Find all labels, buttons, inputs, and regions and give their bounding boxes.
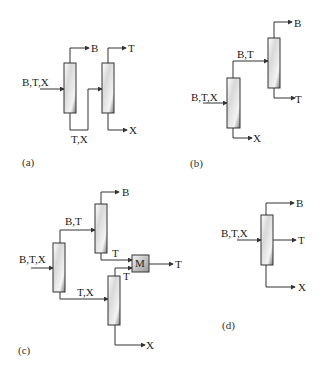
stream-arrow-c-top2 xyxy=(101,192,119,204)
stream-label-d-bottom: X xyxy=(298,281,306,293)
panel-label-b: (b) xyxy=(190,157,203,170)
stream-label-b-bottom2: T xyxy=(295,93,302,105)
stream-label-c-bottom2: T xyxy=(112,247,119,259)
panel-label-a: (a) xyxy=(22,156,35,169)
stream-label-b-bottom1: X xyxy=(253,132,261,144)
stream-arrow-b-bottom2 xyxy=(274,88,295,98)
process-diagram: B,T,X B T,X T X (a) B,T,X B,T X B T (b) … xyxy=(0,0,325,369)
column-d xyxy=(261,215,273,265)
stream-arrow-a-top1 xyxy=(70,48,89,63)
panel-label-c: (c) xyxy=(18,344,31,357)
panel-c: B,T,X B,T T,X B T T X M T (c) xyxy=(18,186,182,357)
stream-label-b-top1: B,T xyxy=(237,48,254,60)
stream-label-b-top2: B xyxy=(294,17,301,29)
stream-label-a-top1: B xyxy=(91,42,98,54)
stream-label-d-side: T xyxy=(298,234,305,246)
panel-a: B,T,X B T,X T X (a) xyxy=(22,42,137,169)
stream-arrow-b-top2 xyxy=(274,22,292,38)
column-c2 xyxy=(95,204,107,253)
stream-label-d-top: B xyxy=(296,197,303,209)
mixer-label: M xyxy=(135,257,145,269)
stream-label-a-top2: T xyxy=(128,42,135,54)
feed-label-d: B,T,X xyxy=(221,227,248,239)
stream-arrow-c-top1 xyxy=(60,230,95,243)
feed-label-c: B,T,X xyxy=(19,253,46,265)
stream-arrow-c-bottom3 xyxy=(115,325,145,345)
stream-arrow-a-bottom2 xyxy=(108,113,127,130)
column-c3 xyxy=(108,276,120,325)
panel-d: B,T,X B T X (d) xyxy=(221,197,306,332)
stream-arrow-a-top2 xyxy=(108,48,126,63)
stream-label-c-bottom1: T,X xyxy=(77,286,94,298)
column-c1 xyxy=(53,243,65,292)
column-a2 xyxy=(102,63,114,113)
panel-label-d: (d) xyxy=(222,319,235,332)
column-b2 xyxy=(268,38,280,88)
stream-label-c-top2: B xyxy=(122,186,129,198)
column-b1 xyxy=(227,78,240,128)
column-a1 xyxy=(64,63,76,113)
stream-label-c-bottom3: X xyxy=(146,339,154,351)
feed-label-a: B,T,X xyxy=(22,76,49,88)
stream-label-c-mixer-out: T xyxy=(175,258,182,270)
stream-arrow-b-top1 xyxy=(233,61,268,78)
stream-label-a-middle: T,X xyxy=(71,133,88,145)
feed-label-b: B,T,X xyxy=(191,91,218,103)
stream-label-a-bottom2: X xyxy=(129,124,137,136)
stream-arrow-d-bottom xyxy=(266,265,295,287)
panel-b: B,T,X B,T X B T (b) xyxy=(190,17,302,170)
stream-arrow-b-bottom1 xyxy=(233,128,252,138)
stream-arrow-d-top xyxy=(266,203,294,215)
stream-label-c-top3: T xyxy=(123,270,130,282)
stream-label-c-top1: B,T xyxy=(65,215,82,227)
